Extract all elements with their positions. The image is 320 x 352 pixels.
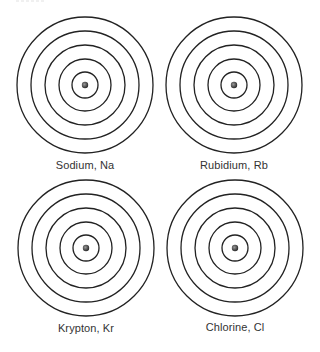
- atom-label: Sodium, Na: [5, 159, 165, 171]
- nucleus-dot: [231, 82, 237, 88]
- atom-diagram-krypton: Krypton, Kr: [0, 176, 160, 352]
- nucleus-dot: [83, 245, 89, 251]
- atom-diagram-rubidium: Rubidium, Rb: [160, 0, 320, 176]
- atom-label: Rubidium, Rb: [154, 159, 314, 171]
- nucleus-dot: [232, 245, 238, 251]
- shell-rings: [160, 0, 320, 176]
- shell-rings: [0, 0, 160, 176]
- atom-label: Krypton, Kr: [6, 322, 166, 334]
- atom-diagram-sodium: Sodium, Na: [0, 0, 160, 176]
- nucleus-dot: [82, 82, 88, 88]
- atom-diagram-chlorine: Chlorine, Cl: [160, 176, 320, 352]
- atom-label: Chlorine, Cl: [155, 321, 315, 333]
